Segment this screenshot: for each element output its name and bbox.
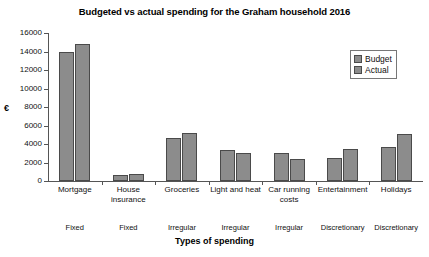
bar-budget[interactable] [166,138,181,181]
bar-group [274,33,305,181]
x-axis-category-label: Light and heat [209,185,263,195]
legend-item[interactable]: Budget [354,53,392,64]
x-axis-category-type-label: Fixed [48,223,102,232]
x-axis-category-type-label: Discretionary [316,223,370,232]
bar-actual[interactable] [182,133,197,181]
bar-budget[interactable] [113,175,128,181]
y-axis-tick-mark [44,107,48,108]
bar-actual[interactable] [343,149,358,181]
y-axis-tick-mark [44,89,48,90]
legend-swatch-icon [354,55,362,63]
y-axis-tick-label: 12000 [2,66,42,74]
legend-label: Actual [365,65,389,75]
y-axis-tick-label: 4000 [2,140,42,148]
chart-title: Budgeted vs actual spending for the Grah… [0,6,429,17]
bar-chart: Budgeted vs actual spending for the Grah… [0,0,429,257]
bar-group [220,33,251,181]
bar-actual[interactable] [236,153,251,181]
x-axis-line [48,181,423,182]
x-axis-category-label: Groceries [155,185,209,195]
y-axis-tick-label: 8000 [2,103,42,111]
x-axis-category-type-label: Irregular [155,223,209,232]
y-axis-tick-mark [44,126,48,127]
chart-legend: BudgetActual [350,50,397,79]
bar-actual[interactable] [129,174,144,181]
bar-actual[interactable] [397,134,412,181]
y-axis-tick-label: 6000 [2,122,42,130]
x-axis-category-type-label: Irregular [262,223,316,232]
bar-budget[interactable] [327,158,342,181]
x-axis-category-type-label: Irregular [209,223,263,232]
y-axis-tick-label: 14000 [2,48,42,56]
y-axis-tick-mark [44,163,48,164]
y-axis-tick-mark [44,70,48,71]
y-axis-line [48,33,49,182]
bar-actual[interactable] [290,159,305,181]
y-axis-tick-mark [44,181,48,182]
x-axis-category-label: Holidays [369,185,423,195]
bar-group [113,33,144,181]
y-axis-tick-label: 10000 [2,85,42,93]
x-axis-category-label: House insurance [102,185,156,204]
y-axis-tick-mark [44,52,48,53]
legend-label: Budget [365,54,392,64]
x-axis-category-label: Car running costs [262,185,316,204]
legend-swatch-icon [354,66,362,74]
bar-budget[interactable] [59,52,74,182]
bar-group [59,33,90,181]
x-axis-category-label: Mortgage [48,185,102,195]
x-axis-category-type-label: Discretionary [369,223,423,232]
y-axis-tick-label: 0 [2,177,42,185]
x-axis-category-label: Entertainment [316,185,370,195]
bar-budget[interactable] [381,147,396,181]
legend-item[interactable]: Actual [354,64,392,75]
y-axis-tick-label: 2000 [2,159,42,167]
y-axis-tick-label: 16000 [2,29,42,37]
x-axis-category-labels: MortgageFixedHouse insuranceFixedGroceri… [48,185,423,233]
y-axis-tick-mark [44,33,48,34]
y-axis-tick-mark [44,144,48,145]
bar-group [166,33,197,181]
bar-budget[interactable] [220,150,235,181]
bar-budget[interactable] [274,153,289,181]
bar-actual[interactable] [75,44,90,181]
x-axis-label: Types of spending [0,236,429,246]
x-axis-category-type-label: Fixed [102,223,156,232]
